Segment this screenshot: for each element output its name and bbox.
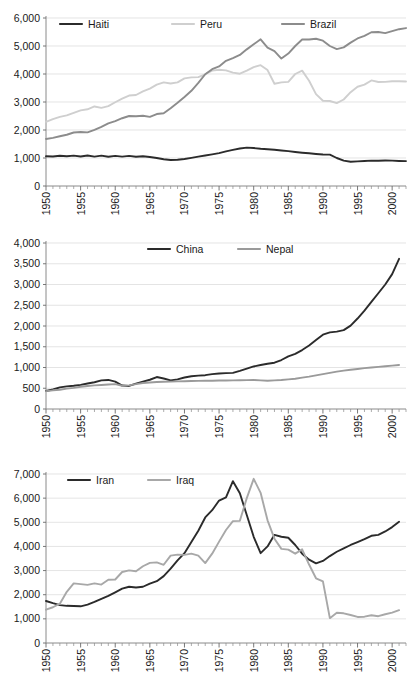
x-tick-label: 1965 [144, 415, 156, 439]
y-tick-label: 6,000 [14, 492, 40, 504]
x-tick-label: 1975 [213, 649, 225, 673]
y-tick-label: 2,500 [14, 299, 40, 311]
legend-label-iraq: Iraq [176, 474, 194, 486]
x-tick-label: 1950 [40, 415, 52, 439]
legend-label-nepal: Nepal [266, 243, 293, 255]
x-tick-label: 1990 [317, 192, 329, 216]
y-tick-label: 5,000 [14, 40, 40, 52]
x-tick-label: 2000 [386, 415, 398, 439]
line-chart-china-nepal: 05001,0001,5002,0002,5003,0003,5004,0001… [0, 228, 414, 456]
x-tick-label: 1980 [248, 415, 260, 439]
x-tick-label: 1970 [178, 649, 190, 673]
y-tick-label: 0 [34, 637, 40, 649]
line-chart-haiti-peru-brazil: 01,0002,0003,0004,0005,0006,000195019551… [0, 0, 414, 228]
x-tick-label: 1985 [282, 649, 294, 673]
x-tick-label: 1995 [352, 415, 364, 439]
series-line-haiti [46, 148, 406, 162]
x-tick-label: 1980 [248, 192, 260, 216]
y-tick-label: 5,000 [14, 516, 40, 528]
x-tick-label: 1965 [144, 192, 156, 216]
y-tick-label: 4,000 [14, 68, 40, 80]
x-tick-label: 1960 [109, 415, 121, 439]
chart-page: 01,0002,0003,0004,0005,0006,000195019551… [0, 0, 414, 688]
x-tick-label: 1955 [75, 192, 87, 216]
y-tick-label: 1,500 [14, 340, 40, 352]
legend-label-china: China [176, 243, 204, 255]
x-tick-label: 1960 [109, 192, 121, 216]
series-line-iran [46, 481, 399, 606]
y-tick-label: 3,000 [14, 278, 40, 290]
x-tick-label: 1950 [40, 649, 52, 673]
chart-panel-2: 05001,0001,5002,0002,5003,0003,5004,0001… [0, 228, 414, 456]
y-tick-label: 1,000 [14, 152, 40, 164]
y-tick-label: 6,000 [14, 12, 40, 24]
y-tick-label: 3,500 [14, 257, 40, 269]
x-tick-label: 1970 [178, 192, 190, 216]
y-tick-label: 7,000 [14, 468, 40, 480]
x-tick-label: 1975 [213, 192, 225, 216]
line-chart-iran-iraq: 01,0002,0003,0004,0005,0006,0007,0001950… [0, 456, 414, 688]
x-tick-label: 1965 [144, 649, 156, 673]
y-tick-label: 1,000 [14, 612, 40, 624]
y-tick-label: 3,000 [14, 564, 40, 576]
x-tick-label: 1995 [352, 649, 364, 673]
legend-label-haiti: Haiti [88, 18, 109, 30]
x-tick-label: 1990 [317, 649, 329, 673]
y-tick-label: 0 [34, 180, 40, 192]
legend-label-peru: Peru [200, 18, 222, 30]
y-tick-label: 3,000 [14, 96, 40, 108]
x-tick-label: 2000 [386, 649, 398, 673]
chart-panel-3: 01,0002,0003,0004,0005,0006,0007,0001950… [0, 456, 414, 688]
x-tick-label: 1950 [40, 192, 52, 216]
x-tick-label: 1975 [213, 415, 225, 439]
x-tick-label: 1955 [75, 415, 87, 439]
legend-label-iran: Iran [96, 474, 114, 486]
x-tick-label: 1985 [282, 415, 294, 439]
y-tick-label: 0 [34, 403, 40, 415]
x-tick-label: 1955 [75, 649, 87, 673]
chart-panel-1: 01,0002,0003,0004,0005,0006,000195019551… [0, 0, 414, 228]
y-tick-label: 2,000 [14, 588, 40, 600]
y-tick-label: 500 [22, 382, 40, 394]
y-tick-label: 4,000 [14, 540, 40, 552]
x-tick-label: 2000 [386, 192, 398, 216]
y-tick-label: 1,000 [14, 361, 40, 373]
series-line-nepal [46, 365, 399, 391]
y-tick-label: 2,000 [14, 124, 40, 136]
x-tick-label: 1970 [178, 415, 190, 439]
x-tick-label: 1960 [109, 649, 121, 673]
legend-label-brazil: Brazil [310, 18, 336, 30]
x-tick-label: 1995 [352, 192, 364, 216]
y-tick-label: 2,000 [14, 320, 40, 332]
y-tick-label: 4,000 [14, 237, 40, 249]
x-tick-label: 1985 [282, 192, 294, 216]
x-tick-label: 1980 [248, 649, 260, 673]
x-tick-label: 1990 [317, 415, 329, 439]
series-line-brazil [46, 28, 406, 139]
